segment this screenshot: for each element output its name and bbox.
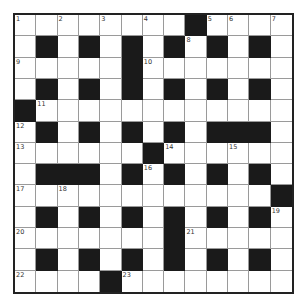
answer-cell[interactable]: [228, 79, 249, 100]
answer-cell[interactable]: [122, 15, 143, 36]
answer-cell[interactable]: [36, 58, 57, 79]
answer-cell[interactable]: 4: [143, 15, 164, 36]
answer-cell[interactable]: [100, 79, 121, 100]
answer-cell[interactable]: [79, 185, 100, 206]
answer-cell[interactable]: [185, 207, 206, 228]
answer-cell[interactable]: [228, 185, 249, 206]
answer-cell[interactable]: [79, 100, 100, 121]
answer-cell[interactable]: [143, 79, 164, 100]
answer-cell[interactable]: [36, 271, 57, 292]
answer-cell[interactable]: [228, 100, 249, 121]
answer-cell[interactable]: [143, 100, 164, 121]
answer-cell[interactable]: 21: [185, 228, 206, 249]
answer-cell[interactable]: [228, 249, 249, 270]
answer-cell[interactable]: [100, 164, 121, 185]
answer-cell[interactable]: [58, 58, 79, 79]
answer-cell[interactable]: [271, 100, 292, 121]
answer-cell[interactable]: [143, 185, 164, 206]
answer-cell[interactable]: [228, 164, 249, 185]
answer-cell[interactable]: 19: [271, 207, 292, 228]
answer-cell[interactable]: [228, 58, 249, 79]
answer-cell[interactable]: 22: [15, 271, 36, 292]
answer-cell[interactable]: 18: [58, 185, 79, 206]
answer-cell[interactable]: [100, 249, 121, 270]
answer-cell[interactable]: [100, 36, 121, 57]
answer-cell[interactable]: [185, 122, 206, 143]
answer-cell[interactable]: [15, 36, 36, 57]
answer-cell[interactable]: 15: [228, 143, 249, 164]
answer-cell[interactable]: [228, 228, 249, 249]
answer-cell[interactable]: [249, 143, 270, 164]
answer-cell[interactable]: [100, 100, 121, 121]
answer-cell[interactable]: [122, 100, 143, 121]
answer-cell[interactable]: [271, 143, 292, 164]
answer-cell[interactable]: 3: [100, 15, 121, 36]
answer-cell[interactable]: [143, 122, 164, 143]
answer-cell[interactable]: [122, 185, 143, 206]
answer-cell[interactable]: [36, 228, 57, 249]
answer-cell[interactable]: [36, 143, 57, 164]
answer-cell[interactable]: [164, 58, 185, 79]
answer-cell[interactable]: [207, 100, 228, 121]
answer-cell[interactable]: 8: [185, 36, 206, 57]
answer-cell[interactable]: [271, 164, 292, 185]
answer-cell[interactable]: [271, 79, 292, 100]
answer-cell[interactable]: 1: [15, 15, 36, 36]
answer-cell[interactable]: 7: [271, 15, 292, 36]
answer-cell[interactable]: [143, 228, 164, 249]
answer-cell[interactable]: [36, 15, 57, 36]
answer-cell[interactable]: [15, 249, 36, 270]
answer-cell[interactable]: [249, 100, 270, 121]
answer-cell[interactable]: [207, 271, 228, 292]
answer-cell[interactable]: [228, 36, 249, 57]
answer-cell[interactable]: [207, 58, 228, 79]
answer-cell[interactable]: [100, 228, 121, 249]
answer-cell[interactable]: [185, 164, 206, 185]
answer-cell[interactable]: [164, 271, 185, 292]
answer-cell[interactable]: 23: [122, 271, 143, 292]
answer-cell[interactable]: 13: [15, 143, 36, 164]
answer-cell[interactable]: 11: [36, 100, 57, 121]
answer-cell[interactable]: [143, 36, 164, 57]
answer-cell[interactable]: [58, 271, 79, 292]
answer-cell[interactable]: [122, 143, 143, 164]
answer-cell[interactable]: [100, 58, 121, 79]
answer-cell[interactable]: [228, 271, 249, 292]
answer-cell[interactable]: [207, 143, 228, 164]
answer-cell[interactable]: [185, 185, 206, 206]
answer-cell[interactable]: [100, 122, 121, 143]
answer-cell[interactable]: 16: [143, 164, 164, 185]
answer-cell[interactable]: [143, 207, 164, 228]
answer-cell[interactable]: 5: [207, 15, 228, 36]
answer-cell[interactable]: [185, 271, 206, 292]
answer-cell[interactable]: [185, 249, 206, 270]
answer-cell[interactable]: 10: [143, 58, 164, 79]
answer-cell[interactable]: [79, 143, 100, 164]
answer-cell[interactable]: [143, 271, 164, 292]
answer-cell[interactable]: [185, 143, 206, 164]
answer-cell[interactable]: [185, 100, 206, 121]
answer-cell[interactable]: [100, 185, 121, 206]
answer-cell[interactable]: [58, 207, 79, 228]
answer-cell[interactable]: 17: [15, 185, 36, 206]
answer-cell[interactable]: [100, 143, 121, 164]
answer-cell[interactable]: [207, 185, 228, 206]
answer-cell[interactable]: [58, 122, 79, 143]
answer-cell[interactable]: [58, 249, 79, 270]
answer-cell[interactable]: [15, 79, 36, 100]
answer-cell[interactable]: [143, 249, 164, 270]
answer-cell[interactable]: [185, 79, 206, 100]
answer-cell[interactable]: [15, 207, 36, 228]
answer-cell[interactable]: [58, 79, 79, 100]
answer-cell[interactable]: [271, 249, 292, 270]
answer-cell[interactable]: [271, 228, 292, 249]
answer-cell[interactable]: 12: [15, 122, 36, 143]
answer-cell[interactable]: [271, 271, 292, 292]
answer-cell[interactable]: [15, 164, 36, 185]
answer-cell[interactable]: [271, 36, 292, 57]
answer-cell[interactable]: [185, 58, 206, 79]
answer-cell[interactable]: [122, 228, 143, 249]
answer-cell[interactable]: [249, 185, 270, 206]
answer-cell[interactable]: [228, 207, 249, 228]
answer-cell[interactable]: [249, 58, 270, 79]
